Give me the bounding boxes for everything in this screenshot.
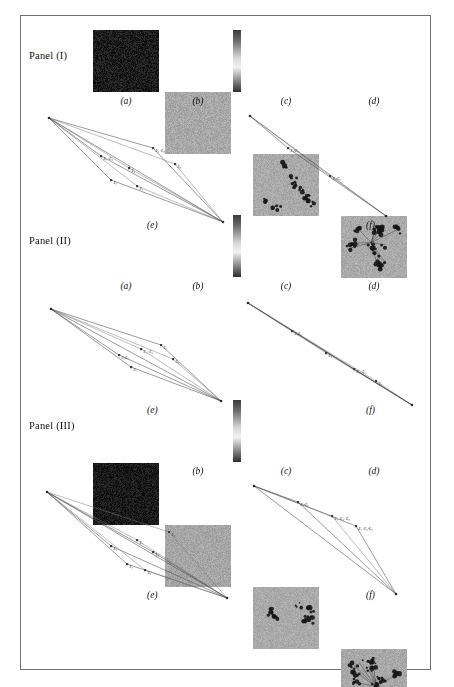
sub-caption: (b) <box>178 281 218 291</box>
graph-canvas: E₁E₂E₁+E₂E₂E₃E₁ <box>41 297 236 419</box>
colorbar <box>233 400 241 462</box>
graph-e: E₁E₂E₁+E₂E₂E₃E₁ <box>41 297 236 419</box>
edge-label: E₁+E₂+E₃ <box>334 517 351 521</box>
panel-label: Panel (III) <box>29 420 75 431</box>
graph-caption-f: (f) <box>366 220 375 230</box>
graph-hub-node <box>226 597 229 600</box>
edge-label: E₁+E₂-E₃ <box>358 527 374 531</box>
edge-label: E₄ <box>139 187 144 191</box>
graph-node <box>126 563 128 565</box>
edge-label: E₂ <box>163 346 168 350</box>
graph-overlay-image <box>341 649 407 687</box>
sub-caption: (a) <box>106 281 146 291</box>
graph-f: E₁-E₂E₁+E₂+E₃E₁+E₂-E₃ <box>236 482 426 604</box>
graph-node <box>375 380 377 382</box>
edge-label: E₅ <box>171 533 176 537</box>
graph-edge <box>47 492 227 598</box>
graph-hub-node <box>253 485 256 488</box>
graph-f: E₁E₂E₂E₁+E₂E₁ <box>236 297 426 419</box>
edge-label: E₁E₂ <box>294 332 303 336</box>
graph-canvas: E₂E₄E₃E₅E₁E₆ <box>41 482 236 604</box>
graph-hub-node <box>46 491 49 494</box>
graph-node <box>136 185 138 187</box>
graph-caption-e: (e) <box>147 590 158 600</box>
colorbar <box>233 215 241 277</box>
edge-label: E₃ <box>155 553 160 557</box>
panel-label: Panel (II) <box>29 235 71 246</box>
edge-label: E₁ <box>129 565 134 569</box>
edge-label: E₂ <box>131 169 136 173</box>
graph-edge <box>49 118 223 222</box>
graph-node <box>100 155 102 157</box>
graph-node <box>168 531 170 533</box>
edge-label: E₁+E₃ <box>155 149 166 153</box>
graph-hub-node <box>222 221 225 224</box>
graph-edge <box>254 486 396 594</box>
sub-caption: (c) <box>266 466 306 476</box>
sub-caption: (c) <box>266 281 306 291</box>
graph-canvas: E₁-E₂E₁+E₂+E₃E₁+E₂-E₃ <box>236 482 426 604</box>
edge-label: E₁-E₂ <box>300 503 310 507</box>
graph-hub-node <box>220 400 223 403</box>
graph-caption-f: (f) <box>366 405 375 415</box>
graph-node <box>329 175 331 177</box>
graph-caption-f: (f) <box>366 590 375 600</box>
edge-label: E₃ <box>175 360 180 364</box>
graph-node <box>331 515 333 517</box>
graph-canvas: E₁+E₂E₂E₁+E₃E₃E₁E₄ <box>41 112 236 234</box>
graph-f: E₁-E₂E₁-E₃ <box>236 112 426 234</box>
edge-label: E₃ <box>177 165 182 169</box>
sub-caption: (a) <box>106 466 146 476</box>
raw-dark-image <box>93 30 159 92</box>
graph-hub-node <box>249 115 252 118</box>
graph-node <box>160 344 162 346</box>
figure-frame: Panel (I)(a)(b)(c)(d)E₁+E₂E₂E₁+E₃E₃E₁E₄(… <box>20 15 431 670</box>
graph-node <box>140 348 142 350</box>
sub-caption: (c) <box>266 96 306 106</box>
graph-hub-node <box>50 308 53 311</box>
graph-caption-e: (e) <box>147 220 158 230</box>
graph-canvas: E₁-E₂E₁-E₃ <box>236 112 426 234</box>
panel-label: Panel (I) <box>29 50 67 61</box>
graph-node <box>353 368 355 370</box>
sub-caption: (d) <box>354 96 394 106</box>
edge-label: E₁+E₂ <box>143 350 154 354</box>
edge-label: E₁-E₂ <box>290 149 300 153</box>
sub-caption: (d) <box>354 466 394 476</box>
edge-label: E₁-E₃ <box>332 177 342 181</box>
graph-node <box>136 539 138 541</box>
graph-node <box>355 525 357 527</box>
graph-caption-e: (e) <box>147 405 158 415</box>
graph-node <box>172 358 174 360</box>
graph-e: E₁+E₂E₂E₁+E₃E₃E₁E₄ <box>41 112 236 234</box>
graph-edge <box>250 116 386 216</box>
graph-node <box>128 167 130 169</box>
colorbar <box>233 30 241 92</box>
edge-label: E₁ <box>378 382 383 386</box>
graph-node <box>118 354 120 356</box>
graph-hub-node <box>411 404 414 407</box>
graph-node <box>174 163 176 165</box>
edge-label: E₁ <box>133 368 138 372</box>
graph-canvas: E₁E₂E₂E₁+E₂E₁ <box>236 297 426 419</box>
graph-e: E₂E₄E₃E₅E₁E₆ <box>41 482 236 604</box>
sub-caption: (b) <box>178 96 218 106</box>
edge-label: E₁+E₂ <box>103 157 114 161</box>
graph-node <box>325 352 327 354</box>
sub-caption: (a) <box>106 96 146 106</box>
graph-node <box>110 179 112 181</box>
edge-label: E₁+E₂ <box>356 370 367 374</box>
graph-hub-node <box>385 215 388 218</box>
graph-node <box>291 330 293 332</box>
edge-label: E₄ <box>139 541 144 545</box>
graph-hub-node <box>48 117 51 120</box>
graph-hub-node <box>247 302 250 305</box>
edge-label: E₆ <box>147 571 152 575</box>
sub-caption: (b) <box>178 466 218 476</box>
edge-label: E₁ <box>113 181 118 185</box>
graph-node <box>110 545 112 547</box>
edge-label: E₂ <box>328 354 333 358</box>
graph-node <box>130 366 132 368</box>
edge-label: E₂ <box>113 547 118 551</box>
sub-caption: (d) <box>354 281 394 291</box>
